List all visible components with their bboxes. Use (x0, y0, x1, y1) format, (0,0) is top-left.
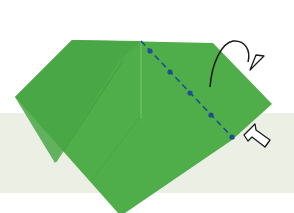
origami-diagram (0, 0, 294, 213)
fold-dot (167, 69, 172, 74)
fold-dot (147, 48, 152, 53)
fold-dot (187, 90, 192, 95)
fold-dot (229, 134, 234, 139)
fold-dot (208, 112, 213, 117)
